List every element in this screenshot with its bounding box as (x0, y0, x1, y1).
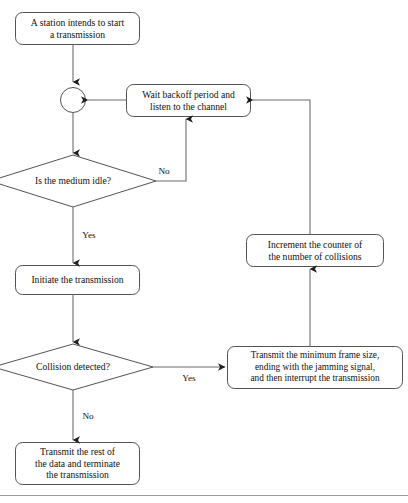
flowchart-svg (0, 0, 408, 503)
collision-decision-shape (0, 344, 153, 390)
junction-shape (61, 88, 86, 113)
edge-label-medium-idle-yes: Yes (76, 230, 102, 240)
edge-label-collision-no: No (77, 411, 99, 421)
edge-label-collision-yes: Yes (176, 373, 202, 383)
wait-backoff-box-shape (127, 85, 251, 117)
flowchart-canvas: A station intends to start a transmissio… (0, 0, 408, 503)
edge-label-medium-idle-no: No (152, 166, 176, 176)
medium-idle-decision-shape (0, 155, 156, 207)
finish-box-shape (16, 443, 140, 485)
increment-box-shape (247, 235, 384, 267)
start-box-shape (16, 13, 140, 45)
jam-box-shape (228, 347, 403, 389)
edge-increment-to-wait (253, 100, 310, 235)
initiate-box-shape (16, 266, 140, 295)
